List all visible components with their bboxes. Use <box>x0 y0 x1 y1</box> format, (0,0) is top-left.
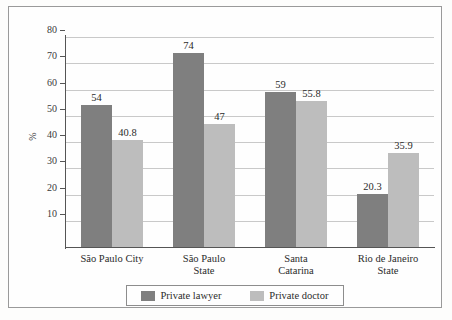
y-axis-tick-mark <box>60 56 65 57</box>
legend-item-private-doctor: Private doctor <box>250 290 328 301</box>
gridline <box>66 63 434 64</box>
bar-private-doctor <box>112 140 143 247</box>
y-axis-tick-label: 60 <box>31 78 57 88</box>
x-axis-category-label: Rio de JaneiroState <box>328 253 448 277</box>
dark-gray-swatch-icon <box>141 291 155 301</box>
category-label-line: State <box>328 265 448 277</box>
legend-label: Private doctor <box>269 290 328 301</box>
bar-private-lawyer <box>173 53 204 247</box>
x-axis-line <box>65 247 435 248</box>
light-gray-swatch-icon <box>250 291 264 301</box>
y-axis-tick-mark <box>60 109 65 110</box>
y-axis-tick-mark <box>60 214 65 215</box>
bar-private-doctor <box>296 101 327 247</box>
category-label-line: Santa <box>284 253 307 264</box>
y-axis-tick-mark <box>60 188 65 189</box>
figure-frame: 8070605040302010 % 5440.874475955.820.33… <box>8 6 442 308</box>
bar-value-label: 55.8 <box>289 88 334 99</box>
chart-legend: Private lawyer Private doctor <box>126 285 344 306</box>
y-axis-tick-label: 10 <box>31 209 57 219</box>
gridline <box>66 90 434 91</box>
category-label-line: São Paulo City <box>80 253 143 264</box>
gridline <box>66 116 434 117</box>
plot-area: 5440.874475955.820.335.9 <box>66 37 434 247</box>
bar-value-label: 74 <box>166 40 211 51</box>
bar-private-lawyer <box>357 194 388 247</box>
category-label-line: Rio de Janeiro <box>358 253 419 264</box>
y-axis-tick-mark <box>60 30 65 31</box>
bar-private-doctor <box>204 124 235 247</box>
y-axis-tick-mark <box>60 135 65 136</box>
y-axis-tick-label: 50 <box>31 104 57 114</box>
y-axis-tick-label: 30 <box>31 156 57 166</box>
bar-value-label: 47 <box>197 111 242 122</box>
category-label-line: São Paulo <box>183 253 225 264</box>
bar-value-label: 54 <box>74 92 119 103</box>
gridline <box>66 37 434 38</box>
y-axis-tick-label: 20 <box>31 183 57 193</box>
bar-chart-figure: 8070605040302010 % 5440.874475955.820.33… <box>0 0 452 320</box>
bar-private-lawyer <box>265 92 296 247</box>
y-axis-tick-label: 80 <box>31 25 57 35</box>
bar-value-label: 40.8 <box>105 127 150 138</box>
y-axis-tick-mark <box>60 161 65 162</box>
y-axis-tick-label: 70 <box>31 51 57 61</box>
y-axis-title: % <box>27 122 38 152</box>
y-axis-tick-mark <box>60 83 65 84</box>
bar-private-doctor <box>388 153 419 247</box>
legend-label: Private lawyer <box>160 290 221 301</box>
y-axis-tick-labels: 8070605040302010 <box>27 7 57 320</box>
legend-item-private-lawyer: Private lawyer <box>141 290 221 301</box>
bar-value-label: 35.9 <box>381 140 426 151</box>
